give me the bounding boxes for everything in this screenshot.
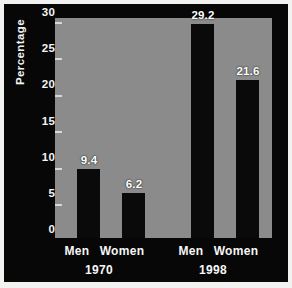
- y-tick-label-10: 10: [29, 152, 55, 164]
- group-label-1970: 1970: [54, 264, 144, 276]
- y-axis-tick-labels: 30 25 20 15 10 5 0: [26, 4, 55, 282]
- category-label-1998-women: Women: [204, 245, 268, 257]
- figure-panel: Percentage 30 25 20 15 10 5 0 9: [4, 4, 288, 282]
- bar-value-1998-men: 29.2: [180, 10, 226, 22]
- y-tick-mark-10: [55, 168, 62, 170]
- y-tick-label-15: 15: [29, 116, 55, 128]
- bar-value-1970-women: 6.2: [111, 179, 157, 191]
- y-tick-mark-20: [55, 95, 62, 97]
- y-tick-label-25: 25: [29, 43, 55, 55]
- bar-1998-women: [236, 80, 259, 238]
- y-tick-label-30: 30: [29, 7, 55, 19]
- bar-1970-women: [122, 193, 145, 238]
- category-label-1970-women: Women: [90, 245, 154, 257]
- bar-value-1970-men: 9.4: [66, 155, 112, 167]
- bar-1970-men: [77, 169, 100, 238]
- chart-screenshot: Percentage 30 25 20 15 10 5 0 9: [0, 0, 292, 288]
- plot-area: 9.4 6.2 29.2 21.6: [55, 18, 272, 238]
- bar-value-1998-women: 21.6: [225, 66, 271, 78]
- y-tick-label-20: 20: [29, 79, 55, 91]
- group-label-1998: 1998: [168, 264, 258, 276]
- bar-1998-men: [191, 24, 214, 238]
- y-tick-label-5: 5: [29, 188, 55, 200]
- y-tick-mark-5: [55, 204, 62, 206]
- y-tick-mark-25: [55, 58, 62, 60]
- y-tick-label-0: 0: [29, 224, 55, 236]
- y-tick-mark-30: [55, 22, 62, 24]
- y-tick-mark-15: [55, 131, 62, 133]
